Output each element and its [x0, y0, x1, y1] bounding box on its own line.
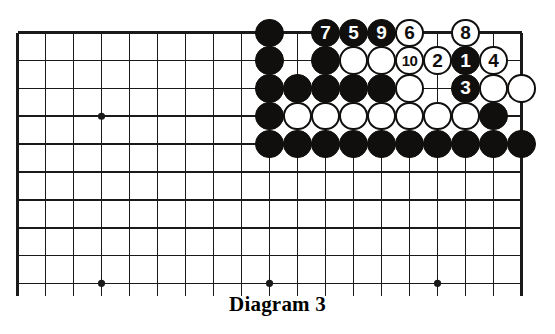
figure-caption: Diagram 3 — [0, 292, 555, 317]
black-stone[interactable] — [451, 130, 479, 158]
move-stone-2[interactable]: 2 — [423, 46, 451, 74]
move-number-label: 7 — [320, 23, 331, 42]
black-stone[interactable] — [479, 102, 507, 130]
move-stone-5[interactable]: 5 — [339, 19, 367, 47]
move-stone-1[interactable]: 1 — [451, 46, 479, 74]
move-number-label: 3 — [460, 78, 471, 97]
star-point — [98, 113, 105, 120]
go-diagram-figure: 75968102143 Diagram 3 — [0, 0, 555, 334]
move-number-label: 10 — [402, 53, 418, 68]
black-stone[interactable] — [507, 130, 535, 158]
black-stone[interactable] — [255, 19, 283, 47]
white-stone[interactable] — [339, 46, 367, 74]
black-stone[interactable] — [255, 46, 283, 74]
black-stone[interactable] — [367, 130, 395, 158]
move-number-label: 4 — [488, 51, 499, 70]
white-stone[interactable] — [283, 102, 311, 130]
move-number-label: 6 — [404, 23, 415, 42]
move-number-label: 9 — [376, 23, 387, 42]
move-stone-3[interactable]: 3 — [451, 74, 479, 102]
white-stone[interactable] — [395, 102, 423, 130]
black-stone[interactable] — [339, 130, 367, 158]
black-stone[interactable] — [283, 74, 311, 102]
black-stone[interactable] — [479, 130, 507, 158]
white-stone[interactable] — [507, 74, 535, 102]
white-stone[interactable] — [311, 102, 339, 130]
black-stone[interactable] — [311, 46, 339, 74]
black-stone[interactable] — [255, 74, 283, 102]
move-stone-10[interactable]: 10 — [395, 46, 423, 74]
black-stone[interactable] — [423, 130, 451, 158]
star-point — [98, 280, 105, 287]
white-stone[interactable] — [451, 102, 479, 130]
move-number-label: 1 — [460, 51, 471, 70]
black-stone[interactable] — [311, 74, 339, 102]
white-stone[interactable] — [395, 74, 423, 102]
move-number-label: 2 — [432, 51, 443, 70]
move-stone-4[interactable]: 4 — [479, 46, 507, 74]
move-stone-8[interactable]: 8 — [451, 19, 479, 47]
move-stone-7[interactable]: 7 — [311, 19, 339, 47]
black-stone[interactable] — [311, 130, 339, 158]
black-stone[interactable] — [339, 74, 367, 102]
move-stone-6[interactable]: 6 — [395, 19, 423, 47]
star-point — [266, 280, 273, 287]
black-stone[interactable] — [283, 130, 311, 158]
black-stone[interactable] — [255, 130, 283, 158]
move-number-label: 5 — [348, 23, 359, 42]
move-stone-9[interactable]: 9 — [367, 19, 395, 47]
black-stone[interactable] — [367, 74, 395, 102]
star-point — [434, 280, 441, 287]
white-stone[interactable] — [423, 102, 451, 130]
move-number-label: 8 — [460, 23, 471, 42]
go-board[interactable]: 75968102143 — [0, 0, 555, 300]
white-stone[interactable] — [339, 102, 367, 130]
white-stone[interactable] — [367, 46, 395, 74]
black-stone[interactable] — [255, 102, 283, 130]
white-stone[interactable] — [367, 102, 395, 130]
black-stone[interactable] — [395, 130, 423, 158]
white-stone[interactable] — [479, 74, 507, 102]
